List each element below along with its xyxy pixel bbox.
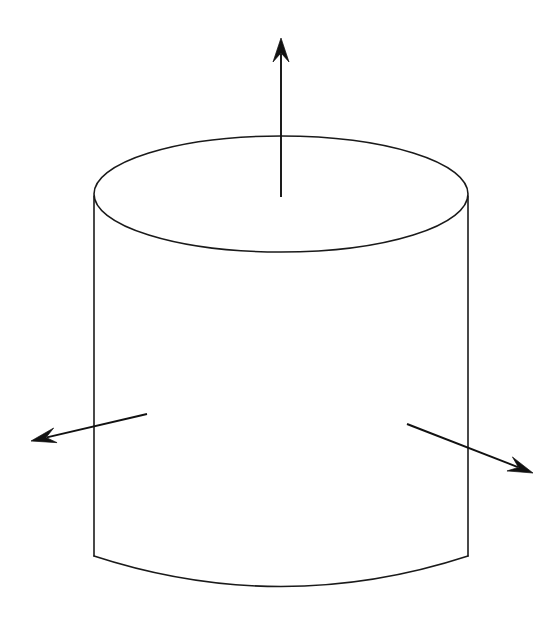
cylinder-body-fill xyxy=(94,196,468,587)
cylinder-diagram-canvas: Cylinder with three outward normal vecto… xyxy=(0,0,556,644)
cylinder-diagram-svg xyxy=(0,0,556,644)
